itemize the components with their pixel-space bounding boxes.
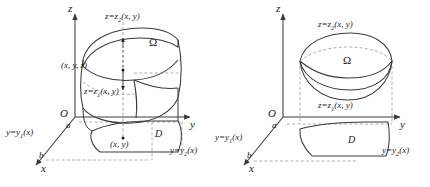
left-z-axis-label: z xyxy=(68,3,72,14)
left-point-3d-label: (x, y, z) xyxy=(61,61,87,70)
left-b-mark-label: b xyxy=(39,151,44,160)
left-solid-omega xyxy=(81,28,181,123)
right-axes xyxy=(244,14,400,165)
right-solid-omega xyxy=(300,33,392,100)
right-region-D-outline xyxy=(300,122,389,156)
left-x-axis-label: x xyxy=(41,163,46,174)
left-top-surface-label: z=z2(x, y) xyxy=(105,12,140,23)
left-top-surface xyxy=(83,28,178,66)
right-b-mark-label: b xyxy=(247,151,252,160)
left-region-D-outline xyxy=(91,121,182,152)
right-curve-y2-label: y=y2(x) xyxy=(382,146,409,157)
right-curve-y1-label: y=y1(x) xyxy=(215,133,242,144)
left-bottom-surface-label: z=z1(x, y) xyxy=(84,87,119,98)
right-a-mark-label: a xyxy=(272,121,277,130)
left-curve-y2-label: y=y2(x) xyxy=(170,146,197,157)
left-crease-vertical xyxy=(134,80,137,118)
right-omega-label: Ω xyxy=(343,55,351,66)
diagram-canvas: z y x O a b z=z2(x, y) z=z1(x, y) Ω D (x… xyxy=(0,0,430,187)
right-bottom-surface-label: z=z1(x, y) xyxy=(318,101,353,112)
left-region-D-label: D xyxy=(155,129,162,139)
left-origin-label: O xyxy=(60,108,68,119)
right-origin-label: O xyxy=(268,108,276,119)
left-crease-right xyxy=(134,80,178,89)
left-curve-y1-label: y=y1(x) xyxy=(6,128,33,139)
right-region-D-label: D xyxy=(348,135,355,145)
left-bottom-surface xyxy=(83,98,178,123)
right-x-axis-label: x xyxy=(249,163,254,174)
left-point-3d-dot xyxy=(122,69,125,72)
right-z-axis-label: z xyxy=(276,3,280,14)
left-point-2d-label: (x, y) xyxy=(110,140,128,149)
left-crease-upper xyxy=(83,60,178,80)
right-y-axis-label: y xyxy=(400,119,405,130)
left-y-axis-label: y xyxy=(190,119,195,130)
diagram-vector-layer xyxy=(0,0,430,187)
left-wall-left xyxy=(83,108,92,131)
left-omega-label: Ω xyxy=(149,37,157,48)
left-a-mark-label: a xyxy=(66,121,71,130)
right-top-surface-label: z=z2(x, y) xyxy=(318,20,353,31)
